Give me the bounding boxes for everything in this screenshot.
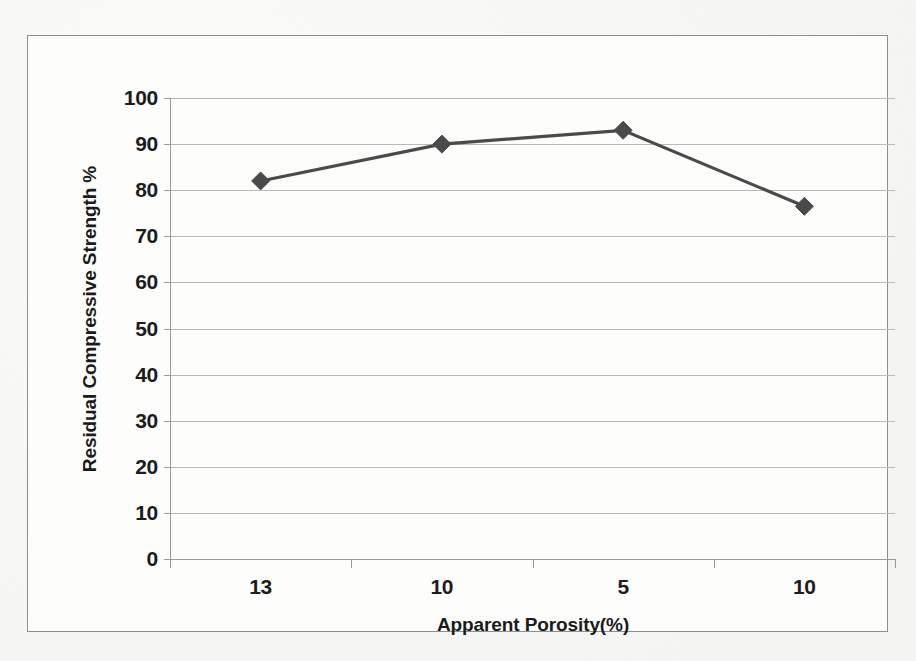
data-point-marker [795, 197, 813, 215]
y-axis-tick-label: 60 [98, 271, 158, 292]
x-axis-tick [895, 560, 896, 568]
y-axis-tick-label: 80 [98, 179, 158, 200]
y-axis-tick-label: 0 [98, 548, 158, 569]
y-axis-tick-label: 40 [98, 364, 158, 385]
chart-frame: 0102030405060708090100 1310510 Apparent … [27, 35, 888, 632]
data-series-svg [170, 98, 895, 559]
x-axis-tick [533, 560, 534, 568]
series-markers-group [252, 121, 814, 215]
series-line [261, 130, 805, 206]
x-axis-tick-label: 10 [744, 576, 864, 597]
y-axis-tick-label: 100 [98, 87, 158, 108]
data-point-marker [252, 172, 270, 190]
x-axis-tick-label: 13 [201, 576, 321, 597]
x-axis-tick [170, 560, 171, 568]
data-point-marker [433, 135, 451, 153]
y-axis-tick-label: 30 [98, 410, 158, 431]
y-axis-tick-label: 90 [98, 133, 158, 154]
y-axis-tick-label: 50 [98, 318, 158, 339]
y-axis-tick-label: 10 [98, 502, 158, 523]
y-axis-tick-label: 20 [98, 456, 158, 477]
plot-area [170, 98, 895, 559]
y-axis-tick-label: 70 [98, 225, 158, 246]
x-axis-tick-label: 10 [382, 576, 502, 597]
data-point-marker [614, 121, 632, 139]
x-axis-tick [714, 560, 715, 568]
x-axis-title: Apparent Porosity(%) [170, 614, 896, 636]
x-axis-tick [351, 560, 352, 568]
y-axis-title: Residual Compressive Strength % [79, 89, 101, 549]
x-axis-tick-label: 5 [563, 576, 683, 597]
